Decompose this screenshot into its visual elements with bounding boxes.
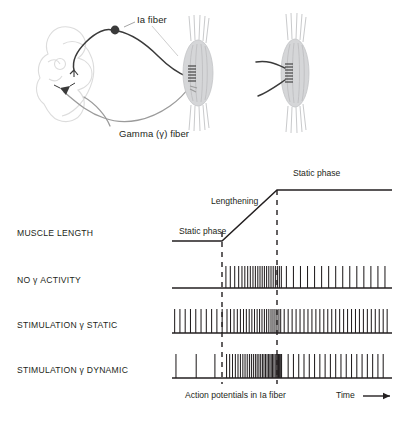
muscle-spindle-gamma-figure	[0, 0, 402, 424]
anatomy-panel	[37, 13, 309, 133]
no-gamma-activity-spike-train	[226, 266, 385, 288]
ia-label-leader-line-2	[152, 26, 178, 56]
muscle-spindle-icon	[256, 13, 309, 133]
row-label-stimulation-gamma-dynamic: STIMULATION γ DYNAMIC	[17, 365, 128, 375]
annulospiral-ending-icon	[285, 64, 293, 82]
ia-fiber-path	[74, 30, 189, 78]
ia-fiber-label: Ia fiber	[137, 14, 167, 25]
gamma-static-spike-train	[175, 309, 388, 333]
phase-label-lengthening: Lengthening	[211, 196, 258, 206]
gamma-fiber-path	[64, 86, 190, 126]
ventral-horn-motor-neuron-icon	[60, 86, 70, 95]
gamma-dynamic-spike-train	[176, 354, 383, 378]
phase-label-static-phase-1: Static phase	[179, 226, 226, 236]
spindle-nerve-fibers-icon	[256, 61, 285, 96]
axis-caption-action-potentials: Action potentials in Ia fiber	[185, 390, 286, 400]
ia-label-leader-line	[124, 22, 135, 27]
row-label-muscle-length: MUSCLE LENGTH	[17, 228, 93, 238]
row-label-no-gamma-activity: NO γ ACTIVITY	[17, 275, 81, 285]
spinal-cord-outline-icon	[37, 27, 94, 122]
dorsal-root-ganglion-cell-icon	[111, 26, 120, 35]
ia-fiber-terminal-icon	[70, 70, 78, 77]
phase-label-static-phase-2: Static phase	[293, 168, 340, 178]
time-arrow-icon	[363, 393, 390, 399]
gamma-fiber-label: Gamma (γ) fiber	[119, 128, 189, 139]
row-label-stimulation-gamma-static: STIMULATION γ STATIC	[17, 320, 118, 330]
axis-caption-time: Time	[336, 390, 355, 400]
muscle-spindle-icon	[183, 15, 213, 131]
recording-panel	[172, 190, 392, 399]
